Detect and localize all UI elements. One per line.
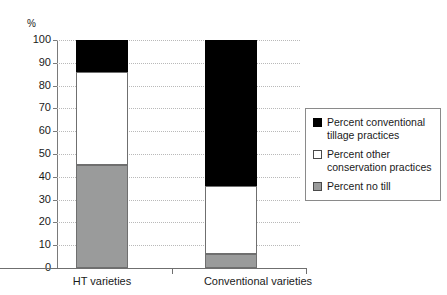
plot-area: 1009080706050403020100 xyxy=(57,40,300,268)
legend-item-conventional-tillage: Percent conventional tillage practices xyxy=(313,116,434,141)
bar-ht-varieties xyxy=(76,40,128,268)
legend-swatch-black-icon xyxy=(313,118,322,127)
legend-item-no-till: Percent no till xyxy=(313,180,434,193)
y-axis-tick-label: 20 xyxy=(25,215,51,228)
y-axis-tick-label: 80 xyxy=(25,79,51,92)
y-axis-tick-label: 70 xyxy=(25,101,51,114)
legend-swatch-gray-icon xyxy=(313,182,322,191)
legend-label: Percent other conservation practices xyxy=(327,148,434,173)
y-axis-tick-mark xyxy=(53,63,57,64)
bar-segment-other-conservation xyxy=(205,186,257,254)
x-axis-line xyxy=(0,268,307,269)
y-axis-tick-mark xyxy=(53,154,57,155)
y-axis-tick-mark xyxy=(53,222,57,223)
x-axis-label-ht-varieties: HT varieties xyxy=(44,274,160,288)
y-axis-tick-mark xyxy=(53,200,57,201)
bar-conventional-varieties xyxy=(205,40,257,268)
legend-swatch-white-icon xyxy=(313,150,322,159)
y-axis-tick-mark xyxy=(53,177,57,178)
y-axis-tick-label: 60 xyxy=(25,124,51,137)
y-axis-tick-label: 50 xyxy=(25,147,51,160)
y-axis-tick-label: 100 xyxy=(25,33,51,46)
bar-segment-no-till xyxy=(76,165,128,268)
y-axis-tick-mark xyxy=(53,131,57,132)
y-axis-tick-label: 40 xyxy=(25,170,51,183)
bar-segment-no-till xyxy=(205,254,257,268)
legend-label: Percent no till xyxy=(327,180,391,193)
legend: Percent conventional tillage practices P… xyxy=(305,108,441,201)
legend-label: Percent conventional tillage practices xyxy=(327,116,434,141)
y-axis-tick-label: 30 xyxy=(25,193,51,206)
y-axis-tick-label: 10 xyxy=(25,238,51,251)
y-axis-tick-mark xyxy=(53,108,57,109)
bar-segment-conventional-tillage xyxy=(205,40,257,186)
x-axis-label-conventional-varieties: Conventional varieties xyxy=(165,274,351,288)
y-axis-tick-label: 90 xyxy=(25,56,51,69)
legend-item-other-conservation: Percent other conservation practices xyxy=(313,148,434,173)
y-axis-tick-mark xyxy=(53,40,57,41)
y-axis-tick-mark xyxy=(53,86,57,87)
bar-segment-conventional-tillage xyxy=(76,40,128,72)
y-axis-tick-mark xyxy=(53,245,57,246)
stacked-bar-chart: % 1009080706050403020100 HT varieties Co… xyxy=(0,0,447,295)
y-axis-unit-label: % xyxy=(27,18,36,29)
bar-segment-other-conservation xyxy=(76,72,128,165)
